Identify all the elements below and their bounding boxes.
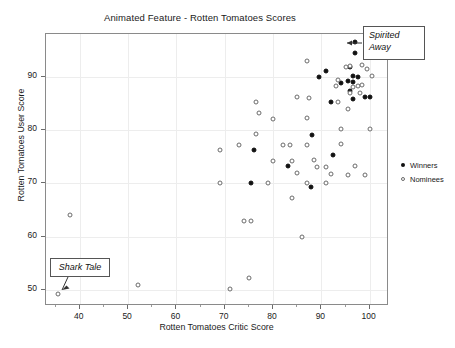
x-axis-tick-label: 100 xyxy=(354,311,384,321)
data-point-winner xyxy=(355,74,360,79)
data-point-nominee xyxy=(360,82,365,87)
gridline-horizontal xyxy=(46,237,387,238)
data-point-winner xyxy=(316,74,321,79)
x-axis-tick xyxy=(79,305,80,309)
data-point-winner xyxy=(353,40,358,45)
x-axis-minor-tick xyxy=(296,305,297,307)
data-point-nominee xyxy=(266,181,271,186)
data-point-nominee xyxy=(290,159,295,164)
data-point-nominee xyxy=(56,291,61,296)
data-point-nominee xyxy=(314,164,319,169)
data-point-winner xyxy=(309,133,314,138)
data-point-nominee xyxy=(254,132,259,137)
data-point-nominee xyxy=(249,218,254,223)
y-axis-label: Rotten Tomatoes User Score xyxy=(16,70,26,220)
data-point-nominee xyxy=(287,143,292,148)
x-axis-tick-label: 60 xyxy=(160,311,190,321)
open-circle-icon xyxy=(398,177,407,181)
data-point-nominee xyxy=(324,180,329,185)
data-point-nominee xyxy=(338,142,343,147)
x-axis-tick xyxy=(175,305,176,309)
legend: Winners Nominees xyxy=(398,158,444,186)
chart-title: Animated Feature - Rotten Tomatoes Score… xyxy=(0,12,400,23)
data-point-winner xyxy=(367,94,372,99)
x-axis-tick-label: 70 xyxy=(209,311,239,321)
y-axis-tick xyxy=(41,236,45,237)
data-point-nominee xyxy=(336,78,341,83)
data-point-nominee xyxy=(307,96,312,101)
data-point-nominee xyxy=(217,147,222,152)
x-axis-tick xyxy=(224,305,225,309)
data-point-nominee xyxy=(343,65,348,70)
data-point-nominee xyxy=(290,196,295,201)
data-point-nominee xyxy=(324,165,329,170)
data-point-nominee xyxy=(370,74,375,79)
data-point-nominee xyxy=(242,218,247,223)
data-point-nominee xyxy=(312,158,317,163)
x-axis-tick xyxy=(272,305,273,309)
data-point-nominee xyxy=(304,143,309,148)
data-point-nominee xyxy=(336,100,341,105)
data-point-nominee xyxy=(353,163,358,168)
data-point-nominee xyxy=(271,117,276,122)
filled-circle-icon xyxy=(398,163,407,167)
x-axis-tick-label: 40 xyxy=(64,311,94,321)
data-point-nominee xyxy=(237,142,242,147)
data-point-nominee xyxy=(217,181,222,186)
annotation-spirited-away: Spirited Away xyxy=(363,26,425,60)
data-point-winner xyxy=(350,96,355,101)
data-point-nominee xyxy=(295,171,300,176)
data-point-winner xyxy=(331,153,336,158)
data-point-nominee xyxy=(367,127,372,132)
chart-container: Animated Feature - Rotten Tomatoes Score… xyxy=(0,0,455,348)
data-point-nominee xyxy=(365,66,370,71)
legend-label-nominees: Nominees xyxy=(410,175,444,184)
x-axis-tick-label: 90 xyxy=(305,311,335,321)
x-axis-minor-tick xyxy=(103,305,104,307)
data-point-nominee xyxy=(304,180,309,185)
x-axis-minor-tick xyxy=(345,305,346,307)
data-point-winner xyxy=(285,164,290,169)
data-point-nominee xyxy=(345,106,350,111)
data-point-nominee xyxy=(300,234,305,239)
x-axis-tick-label: 80 xyxy=(257,311,287,321)
data-point-winner xyxy=(324,69,329,74)
data-point-nominee xyxy=(348,64,353,69)
y-axis-tick-label: 80 xyxy=(15,123,37,133)
x-axis-minor-tick xyxy=(151,305,152,307)
data-point-winner xyxy=(251,147,256,152)
data-point-nominee xyxy=(68,213,73,218)
data-point-nominee xyxy=(280,142,285,147)
data-point-nominee xyxy=(271,158,276,163)
x-axis-minor-tick xyxy=(55,305,56,307)
y-axis-tick xyxy=(41,76,45,77)
data-point-winner xyxy=(353,50,358,55)
data-point-nominee xyxy=(295,95,300,100)
gridline-vertical xyxy=(273,34,274,304)
x-axis-minor-tick xyxy=(200,305,201,307)
y-axis-tick-label: 70 xyxy=(15,176,37,186)
gridline-vertical xyxy=(225,34,226,304)
legend-item-nominees: Nominees xyxy=(398,172,444,186)
x-axis-tick xyxy=(320,305,321,309)
legend-item-winners: Winners xyxy=(398,158,444,172)
data-point-nominee xyxy=(333,83,338,88)
y-axis-tick xyxy=(41,289,45,290)
x-axis-tick xyxy=(127,305,128,309)
gridline-vertical xyxy=(128,34,129,304)
y-axis-tick-label: 50 xyxy=(15,283,37,293)
gridline-horizontal xyxy=(46,130,387,131)
x-axis-tick-label: 50 xyxy=(112,311,142,321)
x-axis-label: Rotten Tomatoes Critic Score xyxy=(45,322,388,332)
data-point-nominee xyxy=(358,90,363,95)
gridline-vertical xyxy=(176,34,177,304)
x-axis-minor-tick xyxy=(248,305,249,307)
y-axis-tick xyxy=(41,129,45,130)
data-point-nominee xyxy=(135,282,140,287)
data-point-winner xyxy=(362,95,367,100)
data-point-nominee xyxy=(338,127,343,132)
data-point-nominee xyxy=(362,173,367,178)
gridline-horizontal xyxy=(46,290,387,291)
data-point-winner xyxy=(308,185,313,190)
y-axis-tick-label: 60 xyxy=(15,230,37,240)
